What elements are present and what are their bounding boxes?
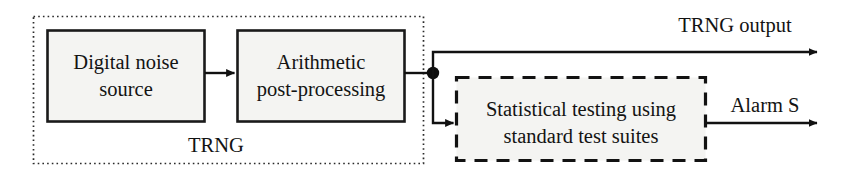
trng-block-diagram: Digital noise source Arithmetic post-pro…	[0, 0, 847, 180]
diagram-canvas: Digital noise source Arithmetic post-pro…	[0, 0, 847, 180]
block-statistical-testing-line2: standard test suites	[504, 125, 659, 147]
block-digital-noise-source-line2: source	[99, 78, 153, 100]
block-arithmetic-post-processing	[238, 31, 405, 122]
block-statistical-testing-line1: Statistical testing using	[486, 98, 676, 121]
block-digital-noise-source	[48, 31, 205, 122]
block-digital-noise-source-line1: Digital noise	[73, 51, 178, 74]
trng-group-label: TRNG	[188, 134, 244, 156]
label-trng-output: TRNG output	[678, 14, 792, 37]
wire-trng-output	[433, 52, 817, 73]
block-arithmetic-post-processing-line2: post-processing	[257, 78, 386, 101]
label-alarm-s: Alarm S	[731, 94, 800, 116]
wire-tap-to-statistical-testing	[433, 73, 454, 123]
block-arithmetic-post-processing-line1: Arithmetic	[277, 51, 366, 73]
